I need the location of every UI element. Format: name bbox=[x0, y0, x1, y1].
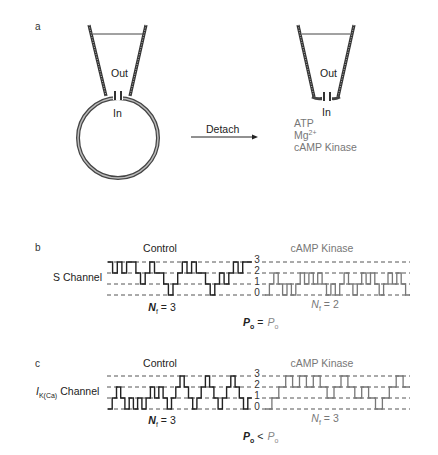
current-subscript: K(Ca) bbox=[39, 392, 57, 400]
figure-canvas: a Out In Detach Out bbox=[0, 0, 438, 455]
panel-c-level-3: 3 bbox=[254, 368, 260, 379]
right-in-label: In bbox=[322, 106, 331, 118]
panel-c-control-nf: Nf= 3 bbox=[148, 414, 176, 428]
panel-b-channel-label: S Channel bbox=[53, 271, 102, 283]
panel-b-level-1: 1 bbox=[254, 276, 260, 287]
panel-b-control-trace bbox=[108, 262, 252, 295]
po-left-sub: o bbox=[250, 323, 254, 330]
nf-value: = 3 bbox=[161, 301, 176, 313]
panel-b-kinase-title: cAMP Kinase bbox=[291, 242, 354, 254]
panel-a-label: a bbox=[35, 21, 41, 32]
addition-mg-text: Mg bbox=[294, 129, 309, 141]
left-out-label: Out bbox=[111, 67, 128, 79]
panel-c-kinase-nf: Nf= 3 bbox=[311, 412, 339, 426]
panel-b-level-3: 3 bbox=[254, 254, 260, 265]
left-in-label: In bbox=[113, 107, 122, 119]
po-left-sub: o bbox=[250, 437, 254, 444]
right-pipette bbox=[298, 25, 354, 99]
left-pipette bbox=[89, 25, 146, 96]
panel-c-level-1: 1 bbox=[254, 390, 260, 401]
nf-value: = 3 bbox=[324, 412, 339, 424]
panel-b-kinase-nf: Nf= 2 bbox=[311, 298, 339, 312]
panel-c-control-trace bbox=[108, 376, 252, 409]
panel-b-level-labels: 3 2 1 0 bbox=[254, 254, 260, 298]
channel-word: Channel bbox=[60, 385, 99, 397]
panel-b-kinase-trace bbox=[265, 273, 410, 295]
po-right-sub: o bbox=[274, 437, 278, 444]
mg-superscript: 2+ bbox=[309, 129, 317, 136]
po-relation-symbol: = bbox=[257, 316, 263, 328]
po-right-sub: o bbox=[274, 323, 278, 330]
panel-c-level-0: 0 bbox=[254, 401, 260, 412]
detach-arrow bbox=[191, 135, 258, 140]
addition-mg: Mg2+ bbox=[294, 129, 317, 141]
panel-c-level-2: 2 bbox=[254, 379, 260, 390]
po-right: P bbox=[267, 316, 274, 328]
po-relation-symbol: < bbox=[257, 430, 263, 442]
nf-value: = 2 bbox=[324, 298, 339, 310]
nf-subscript: f bbox=[319, 305, 321, 312]
panel-b-level-0: 0 bbox=[254, 287, 260, 298]
nf-subscript: f bbox=[319, 419, 321, 426]
addition-atp: ATP bbox=[294, 117, 314, 129]
nf-subscript: f bbox=[156, 308, 158, 315]
arrow-head-icon bbox=[252, 135, 258, 140]
panel-c-level-labels: 3 2 1 0 bbox=[254, 368, 260, 412]
right-out-label: Out bbox=[320, 67, 337, 79]
nf-subscript: f bbox=[156, 421, 158, 428]
panel-b-level-2: 2 bbox=[254, 265, 260, 276]
panel-c-channel-label: IK(Ca)Channel bbox=[36, 385, 99, 400]
nf-value: = 3 bbox=[161, 414, 176, 426]
panel-b-control-nf: Nf= 3 bbox=[148, 301, 176, 315]
detach-label: Detach bbox=[206, 123, 239, 135]
panel-b-po-relation: Po=Po bbox=[243, 316, 278, 330]
panel-c-po-relation: Po<Po bbox=[243, 430, 278, 444]
panel-b-control-title: Control bbox=[143, 242, 177, 254]
addition-camp-kinase: cAMP Kinase bbox=[294, 141, 357, 153]
panel-c-control-title: Control bbox=[143, 357, 177, 369]
po-right: P bbox=[267, 430, 274, 442]
panel-c-kinase-title: cAMP Kinase bbox=[291, 357, 354, 369]
panel-c-kinase-trace bbox=[265, 376, 410, 409]
panel-b-label: b bbox=[35, 242, 41, 253]
panel-c-label: c bbox=[35, 358, 40, 369]
right-channel-icon bbox=[322, 92, 332, 101]
left-channel-icon bbox=[113, 91, 123, 100]
